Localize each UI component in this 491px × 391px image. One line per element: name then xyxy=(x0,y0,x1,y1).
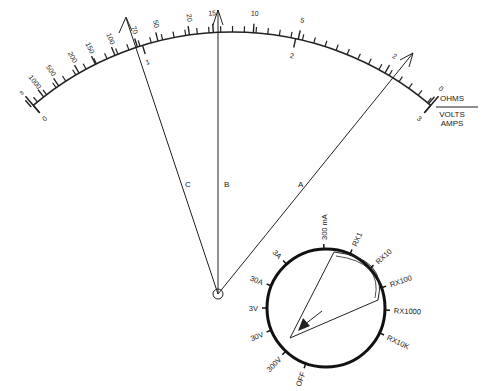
volts-tick-label: 0 xyxy=(41,115,49,123)
selector-arrow-head-icon xyxy=(298,318,310,331)
scale-tick xyxy=(43,90,47,95)
volts-tick-label: 2 xyxy=(289,52,294,60)
scale-tick xyxy=(385,65,390,73)
scale-tick xyxy=(298,30,300,39)
scale-tick xyxy=(34,97,38,102)
scale-tick xyxy=(314,37,316,43)
volts-tick-label: 1 xyxy=(145,58,151,66)
scale-tick xyxy=(279,30,280,36)
pointer-c-label: C xyxy=(185,180,191,189)
selector-tick xyxy=(282,351,285,355)
selector-labels: OFF300V30V3V30A3A300 mARX1RX10RX100RX100… xyxy=(249,214,421,388)
scale-tick xyxy=(425,105,431,112)
meter-diagram: ∞100050020015010070502015105200123 OHMS … xyxy=(0,0,491,391)
selector-position-rx10k[interactable]: RX10K xyxy=(386,333,411,351)
pointer-b-label: B xyxy=(224,180,229,189)
volts-tick-label: 3 xyxy=(416,115,424,123)
scale-tick xyxy=(188,26,189,35)
scale-tick xyxy=(302,34,303,40)
selector-wedge-inner xyxy=(336,256,376,298)
pointer-c xyxy=(126,18,218,294)
scale-tick xyxy=(116,49,118,55)
scale-tick xyxy=(369,59,372,64)
scale-tick xyxy=(185,30,186,36)
scale-tick xyxy=(156,32,158,41)
scale-tick xyxy=(33,105,39,112)
pointer-a-label: A xyxy=(298,180,304,189)
ohms-tick-label: 50 xyxy=(152,19,161,28)
scale-tick xyxy=(143,45,146,54)
selector-tick xyxy=(283,260,286,264)
scale-tick xyxy=(161,34,162,40)
scale-tick xyxy=(173,32,174,38)
scale-tick xyxy=(53,83,56,88)
ohms-tick-label: 150 xyxy=(84,41,96,55)
volts-label: VOLTS xyxy=(439,110,465,119)
pointers xyxy=(119,10,413,299)
selector-position-3a[interactable]: 3A xyxy=(271,248,284,261)
scale-tick xyxy=(138,40,140,46)
scale-tick xyxy=(253,24,254,33)
ohms-tick-label: ∞ xyxy=(18,88,27,96)
ohms-tick-label: 500 xyxy=(45,64,57,78)
scale-tick xyxy=(75,65,80,73)
ohms-label: OHMS xyxy=(440,94,464,103)
range-selector[interactable]: OFF300V30V3V30A3A300 mARX1RX10RX100RX100… xyxy=(249,214,421,388)
selector-ticks xyxy=(262,244,390,368)
scale-tick xyxy=(358,54,360,59)
scale-tick xyxy=(409,83,412,88)
scale-tick xyxy=(418,90,422,95)
selector-position-rx1000[interactable]: RX1000 xyxy=(394,306,421,316)
scale-arc xyxy=(33,32,430,105)
scale-tick xyxy=(336,45,338,51)
amps-label: AMPS xyxy=(441,119,464,128)
meter-scale xyxy=(25,24,438,113)
scale-tick xyxy=(127,44,129,50)
ohms-tick-label: 0 xyxy=(437,85,445,93)
meter-svg: ∞100050020015010070502015105200123 OHMS … xyxy=(0,0,491,391)
selector-position-300v[interactable]: 300V xyxy=(265,355,284,374)
selector-position-300-ma[interactable]: 300 mA xyxy=(320,214,329,240)
ohms-tick-label: 5 xyxy=(300,16,305,24)
ohms-tick-label: 1000 xyxy=(28,74,43,91)
scale-tick xyxy=(399,77,402,82)
scale-tick xyxy=(389,70,392,75)
selector-position-30v[interactable]: 30V xyxy=(249,330,265,343)
selector-position-rx1[interactable]: RX1 xyxy=(350,231,364,248)
scale-tick xyxy=(83,64,86,69)
selector-position-off[interactable]: OFF xyxy=(294,370,308,388)
scale-tick xyxy=(38,90,44,97)
selector-position-3v[interactable]: 3V xyxy=(249,304,258,313)
ohms-tick-label: 100 xyxy=(105,32,116,46)
scale-tick xyxy=(150,37,152,43)
scale-tick xyxy=(105,53,107,58)
selector-position-rx10[interactable]: RX10 xyxy=(374,247,394,266)
scale-tick xyxy=(347,49,349,55)
scale-tick xyxy=(111,47,114,55)
scale-tick xyxy=(197,28,198,34)
ohms-tick-label: 20 xyxy=(186,13,194,22)
scale-tick xyxy=(63,76,66,81)
scale-tick xyxy=(291,32,292,38)
scale-tick xyxy=(294,39,296,48)
scale-tick xyxy=(268,28,269,34)
scale-tick xyxy=(379,64,382,69)
ohms-tick-label: 200 xyxy=(67,50,79,64)
ohms-tick-label: 2 xyxy=(391,52,398,60)
selector-position-30a[interactable]: 30A xyxy=(249,274,265,287)
selector-position-rx100[interactable]: RX100 xyxy=(389,273,414,289)
scale-tick xyxy=(73,70,76,75)
scale-tick xyxy=(325,41,327,47)
ohms-tick-label: 10 xyxy=(251,10,259,18)
ohms-tick-label: 15 xyxy=(208,9,216,16)
